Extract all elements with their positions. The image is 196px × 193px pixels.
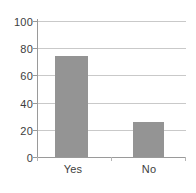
y-tick-label-0: 0 — [0, 153, 33, 164]
x-axis-line — [33, 157, 186, 158]
gridline-100 — [37, 21, 186, 22]
bar-yes — [55, 56, 88, 157]
bar-chart: 100 80 60 40 20 0 Yes No — [0, 0, 196, 193]
y-tick-label-100: 100 — [0, 17, 33, 28]
y-tick-label-80: 80 — [0, 44, 33, 55]
x-tick-mark-right — [185, 157, 186, 161]
x-tick-label-no: No — [117, 164, 181, 175]
bar-no — [133, 122, 164, 157]
y-tick-label-40: 40 — [0, 99, 33, 110]
x-tick-mark-left — [37, 157, 38, 161]
x-tick-label-yes: Yes — [41, 164, 105, 175]
plot-area — [37, 21, 186, 157]
x-tick-mark-middle — [111, 157, 112, 161]
y-axis-line — [37, 19, 38, 159]
gridline-80 — [37, 48, 186, 49]
y-tick-label-60: 60 — [0, 71, 33, 82]
y-tick-label-20: 20 — [0, 126, 33, 137]
